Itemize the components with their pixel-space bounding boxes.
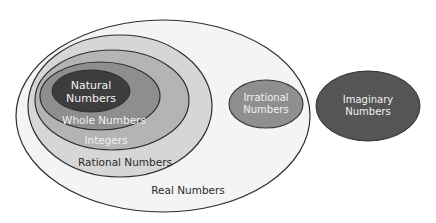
integers-label: Integers bbox=[84, 134, 127, 146]
natural-numbers-label-line1: Natural bbox=[71, 79, 112, 92]
imaginary-numbers-label-line1: Imaginary bbox=[343, 94, 394, 105]
irrational-numbers-label-line1: Irrational bbox=[243, 92, 288, 103]
imaginary-numbers-label-line2: Numbers bbox=[345, 106, 390, 117]
number-sets-diagram: Natural Numbers Whole Numbers Integers R… bbox=[0, 0, 436, 223]
natural-numbers-label-line2: Numbers bbox=[66, 92, 116, 105]
rational-numbers-label: Rational Numbers bbox=[78, 156, 172, 168]
irrational-numbers-label-line2: Numbers bbox=[243, 104, 288, 115]
whole-numbers-label: Whole Numbers bbox=[62, 114, 146, 126]
real-numbers-label: Real Numbers bbox=[151, 184, 225, 196]
